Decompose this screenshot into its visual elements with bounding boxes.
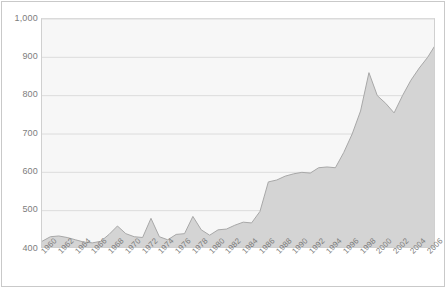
y-axis-tick-label: 500: [2, 205, 38, 214]
x-axis: 1960196219641966196819701972197419761978…: [41, 250, 441, 290]
y-axis: 4005006007008009001,000: [0, 0, 38, 290]
y-axis-tick-label: 800: [2, 90, 38, 99]
y-axis-tick-label: 700: [2, 129, 38, 138]
plot-area: [41, 18, 435, 248]
y-axis-tick-label: 600: [2, 167, 38, 176]
y-axis-tick-label: 400: [2, 244, 38, 253]
area-chart-figure: 4005006007008009001,000 1960196219641966…: [0, 0, 448, 290]
y-axis-tick-label: 1,000: [2, 14, 38, 23]
chart-canvas: [42, 19, 435, 248]
area-series-fill: [42, 44, 435, 248]
y-axis-tick-label: 900: [2, 52, 38, 61]
